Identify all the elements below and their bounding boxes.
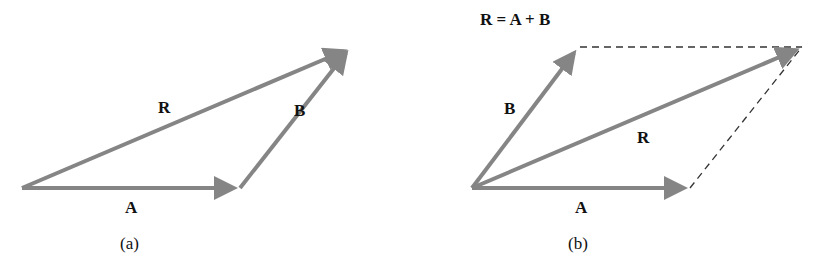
label-b: B	[504, 99, 515, 118]
label-a: A	[125, 198, 138, 217]
label-b: B	[294, 101, 305, 120]
figure-svg: A B R (a) R = A + B B R A (b)	[0, 0, 819, 271]
vector-addition-figure: A B R (a) R = A + B B R A (b)	[0, 0, 819, 271]
label-r: R	[158, 98, 171, 117]
dashed-right-edge	[690, 47, 802, 188]
vector-r-arrow	[472, 50, 796, 188]
caption-b: (b)	[568, 234, 588, 253]
caption-a: (a)	[120, 234, 139, 253]
equation-label: R = A + B	[480, 10, 550, 29]
panel-a: A B R (a)	[22, 51, 346, 253]
label-a: A	[575, 198, 588, 217]
panel-b: R = A + B B R A (b)	[472, 10, 802, 253]
label-r: R	[637, 128, 650, 147]
